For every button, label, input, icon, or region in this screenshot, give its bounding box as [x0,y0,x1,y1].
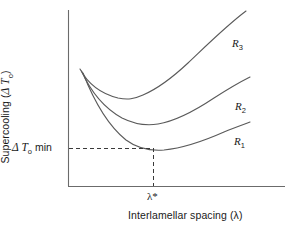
x-tick-label-lambda-star: λ* [147,191,158,202]
x-tick-star: * [152,190,158,202]
x-axis-title-suffix: ) [239,209,243,221]
figure-container: Supercooling (Δ To) Δ To min λ* Interlam… [0,0,293,233]
curve-label-r1: R1 [234,136,245,150]
y-axis-title-symbol: T [0,78,11,85]
x-axis-title-prefix: Interlamellar spacing ( [128,209,234,221]
curve-label-r3-subscript: 3 [239,43,243,52]
curve-label-r3-base: R [232,37,239,49]
curve-label-r2: R2 [235,101,246,115]
y-tick-suffix: min [32,141,52,153]
curve-label-r1-subscript: 1 [241,141,245,150]
y-tick-label-delta-to-min: Δ To min [12,142,52,156]
y-axis-title-subscript: o [6,74,15,78]
y-axis-title-prefix: Supercooling ( [0,94,11,163]
y-axis-title-delta: Δ [0,85,11,95]
y-tick-delta: Δ [12,141,21,153]
y-axis-title-suffix: ) [0,70,11,74]
curve-r1 [83,73,250,150]
curve-r2 [82,71,251,125]
curve-label-r3: R3 [232,38,243,52]
x-axis-title: Interlamellar spacing (λ) [128,210,243,221]
curve-label-r2-subscript: 2 [242,106,246,115]
curve-label-r2-base: R [235,100,242,112]
curve-r3 [80,11,246,99]
curve-label-r1-base: R [234,135,241,147]
